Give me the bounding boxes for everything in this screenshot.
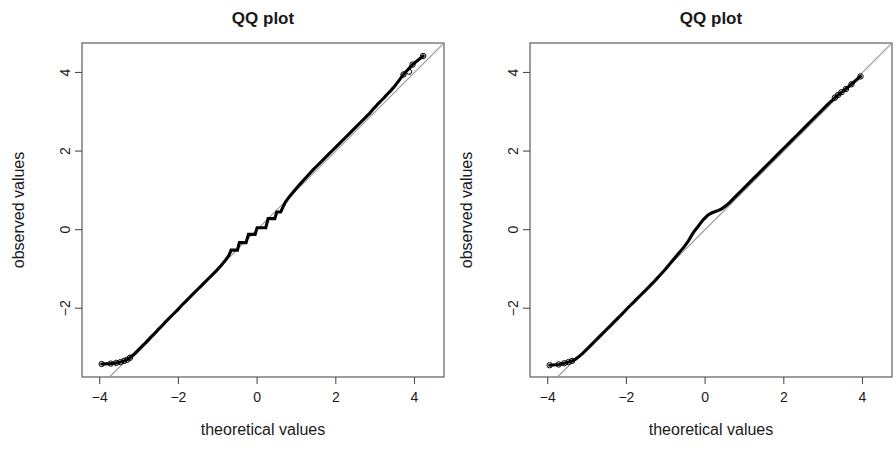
plot-title: QQ plot: [232, 9, 295, 28]
y-tick-label: 2: [57, 147, 73, 155]
plot-title: QQ plot: [680, 9, 743, 28]
x-tick-label: −4: [92, 389, 108, 405]
x-tick-label: 2: [332, 389, 340, 405]
x-axis-title: theoretical values: [649, 421, 774, 438]
y-axis-title: observed values: [458, 152, 475, 269]
x-tick-label: −2: [170, 389, 186, 405]
qq-point-chain: [550, 76, 861, 365]
x-tick-label: 4: [411, 389, 419, 405]
x-tick-label: 4: [859, 389, 867, 405]
y-axis: −2024: [57, 68, 82, 316]
y-tick-label: 2: [505, 147, 521, 155]
y-tick-label: 4: [505, 68, 521, 76]
x-axis-title: theoretical values: [201, 421, 326, 438]
x-tick-label: 0: [253, 389, 261, 405]
qq-plot-svg-right: QQ plot−4−2024theoretical values−2024obs…: [448, 0, 896, 460]
x-axis: −4−2024theoretical values: [92, 377, 419, 438]
qq-point-chain: [102, 56, 423, 364]
qq-plot-svg-left: QQ plot−4−2024theoretical values−2024obs…: [0, 0, 448, 460]
plot-area: [530, 43, 892, 405]
qq-plot-figure: QQ plot−4−2024theoretical values−2024obs…: [0, 0, 896, 460]
x-tick-label: −2: [618, 389, 634, 405]
plot-area: [82, 43, 444, 405]
x-tick-label: 0: [701, 389, 709, 405]
y-tick-label: −2: [505, 300, 521, 316]
y-axis: −2024: [505, 68, 530, 316]
y-tick-label: 0: [505, 226, 521, 234]
y-axis-title: observed values: [10, 152, 27, 269]
plot-frame: [530, 43, 892, 377]
x-tick-label: −4: [540, 389, 556, 405]
y-tick-label: −2: [57, 300, 73, 316]
qq-plot-panel-left: QQ plot−4−2024theoretical values−2024obs…: [0, 0, 448, 460]
y-tick-label: 4: [57, 68, 73, 76]
y-tick-label: 0: [57, 226, 73, 234]
qq-plot-panel-right: QQ plot−4−2024theoretical values−2024obs…: [448, 0, 896, 460]
x-tick-label: 2: [780, 389, 788, 405]
x-axis: −4−2024theoretical values: [540, 377, 867, 438]
